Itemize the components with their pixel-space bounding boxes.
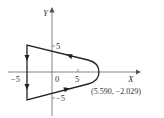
arrow-down-icon bbox=[25, 84, 30, 90]
point-annotation: (5.590, −2.029) bbox=[91, 87, 141, 96]
y-tick-label-5: 5 bbox=[56, 41, 60, 51]
x-tick-label-neg5: −5 bbox=[11, 74, 20, 84]
arrow-down-icon bbox=[25, 55, 30, 61]
x-tick-label-0: 0 bbox=[55, 74, 59, 84]
closed-contour bbox=[27, 45, 99, 100]
y-tick-label-neg5: −5 bbox=[56, 93, 65, 103]
x-tick-label-5: 5 bbox=[75, 74, 79, 84]
arrow-left-icon bbox=[65, 53, 72, 59]
contour-diagram: Y X −5 0 5 5 −5 (5.590, −2.029) bbox=[0, 0, 164, 118]
x-axis-label: X bbox=[127, 74, 134, 84]
y-axis-label: Y bbox=[43, 8, 49, 18]
